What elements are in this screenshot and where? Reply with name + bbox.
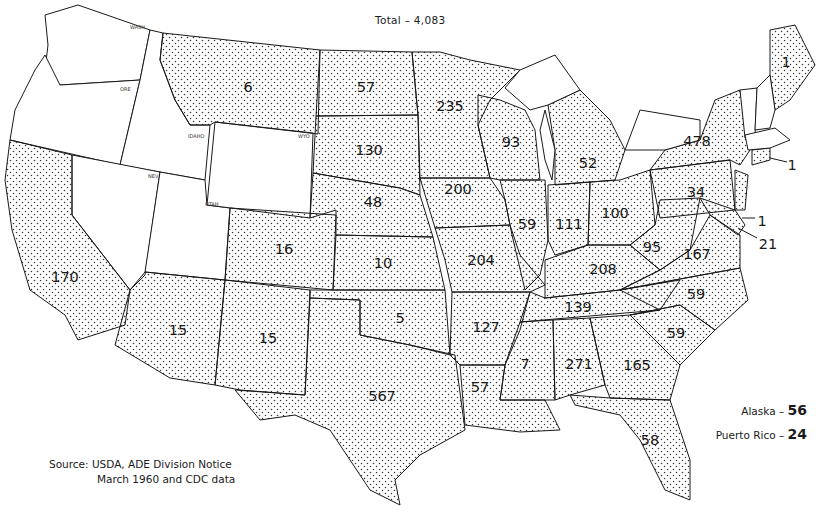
svg-text:UTAH: UTAH: [205, 201, 219, 207]
value-virginia: 167: [683, 246, 711, 262]
svg-text:WASH: WASH: [130, 24, 145, 30]
state-florida: [570, 395, 690, 500]
alaska-count: Alaska – 56: [741, 402, 807, 418]
svg-text:WYO: WYO: [298, 133, 310, 139]
value-oklahoma: 5: [395, 310, 404, 326]
state-maine: [770, 25, 815, 110]
value-mississippi: 7: [520, 356, 529, 372]
value-missouri: 204: [467, 252, 495, 268]
leader-line-connecticut: [770, 158, 787, 162]
value-wisconsin: 93: [502, 134, 520, 150]
value-california: 170: [51, 269, 79, 285]
value-ohio: 100: [601, 205, 629, 221]
value-nebraska: 48: [364, 194, 382, 210]
value-florida: 58: [641, 432, 659, 448]
value-maryland: 21: [759, 236, 777, 252]
value-indiana: 111: [555, 216, 583, 232]
map-title: Total – 4,083: [375, 14, 445, 26]
value-west-virginia: 95: [643, 239, 661, 255]
value-tennessee: 139: [564, 299, 592, 315]
value-iowa: 200: [444, 181, 472, 197]
value-minnesota: 235: [436, 98, 464, 114]
value-arizona: 15: [169, 322, 187, 338]
value-delaware: 1: [757, 213, 766, 229]
value-michigan: 52: [579, 155, 597, 171]
value-north-dakota: 57: [357, 79, 375, 95]
svg-text:IDAHO: IDAHO: [188, 133, 204, 139]
value-louisiana: 57: [471, 379, 489, 395]
state-new-jersey: [735, 170, 748, 210]
value-maine: 1: [781, 54, 790, 70]
value-colorado: 16: [275, 241, 293, 257]
state-connecticut: [752, 148, 770, 165]
value-north-carolina: 59: [687, 286, 705, 302]
value-new-york: 478: [683, 133, 711, 149]
value-new-mexico: 15: [259, 330, 277, 346]
value-alabama: 271: [565, 356, 593, 372]
source-note: Source: USDA, ADE Division Notice March …: [49, 457, 235, 487]
value-south-dakota: 130: [355, 142, 383, 158]
value-kansas: 10: [374, 255, 392, 271]
svg-text:NEV: NEV: [148, 173, 159, 179]
state-washington: [45, 5, 150, 85]
value-texas: 567: [368, 388, 396, 404]
value-arkansas: 127: [472, 319, 500, 335]
svg-text:ORE: ORE: [120, 86, 131, 92]
value-connecticut: 1: [787, 157, 796, 173]
value-illinois: 59: [518, 216, 536, 232]
value-montana: 6: [243, 79, 252, 95]
source-line-2: March 1960 and CDC data: [49, 472, 235, 487]
source-line-1: Source: USDA, ADE Division Notice: [49, 458, 232, 470]
value-south-carolina: 59: [667, 325, 685, 341]
leader-line-maryland: [738, 228, 757, 238]
value-pennsylvania: 34: [687, 184, 705, 200]
puerto-rico-count: Puerto Rico – 24: [716, 426, 807, 442]
value-georgia: 165: [623, 357, 651, 373]
value-kentucky: 208: [589, 261, 617, 277]
